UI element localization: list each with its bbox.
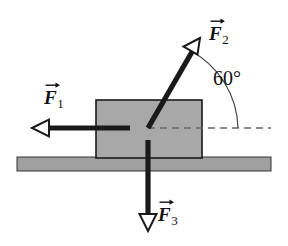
force-label-F1-symbol: F bbox=[44, 87, 57, 108]
F2-arrowhead bbox=[184, 38, 201, 55]
vector-arrow-icon bbox=[45, 81, 60, 88]
force-diagram-svg bbox=[0, 0, 288, 246]
figure-canvas: F 1 F 2 F 3 60° bbox=[0, 0, 288, 246]
vector-arrow-icon bbox=[210, 17, 225, 24]
force-label-F2: F 2 bbox=[209, 24, 229, 46]
force-label-F1: F 1 bbox=[44, 88, 64, 110]
F3-arrowhead bbox=[140, 214, 157, 231]
vector-arrow-icon bbox=[159, 198, 174, 205]
force-label-F3-subscript: 3 bbox=[171, 213, 178, 228]
force-label-F2-subscript: 2 bbox=[222, 32, 229, 47]
force-label-F3: F 3 bbox=[158, 205, 178, 227]
angle-label: 60° bbox=[213, 68, 241, 88]
force-label-F3-symbol: F bbox=[158, 204, 171, 225]
ground-surface bbox=[17, 157, 271, 171]
force-label-F1-subscript: 1 bbox=[57, 96, 64, 111]
force-label-F2-symbol: F bbox=[209, 23, 222, 44]
F1-arrowhead bbox=[32, 120, 49, 137]
